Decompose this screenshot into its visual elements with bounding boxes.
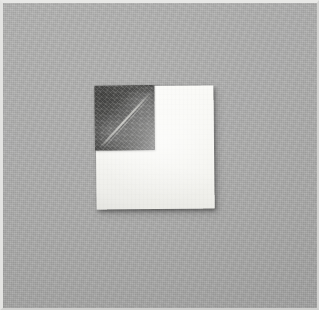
white-paper-square	[95, 85, 214, 209]
diagonal-fold-crease	[99, 90, 152, 148]
dark-treated-quadrant	[94, 85, 155, 151]
paper-crease-extension	[96, 148, 126, 149]
diagonal-fold-crease-secondary	[102, 93, 155, 150]
paper-specimen-group	[95, 85, 214, 209]
photograph-canvas	[0, 0, 319, 310]
